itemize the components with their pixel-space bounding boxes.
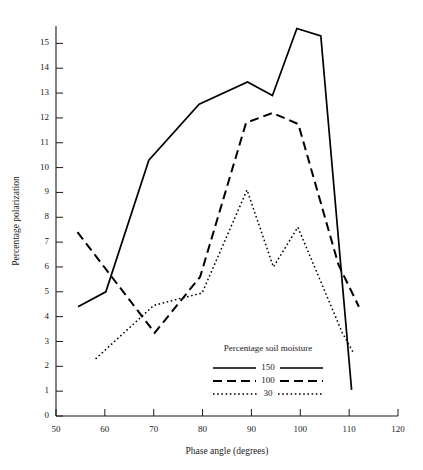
x-tick-label: 80 — [198, 424, 208, 434]
x-tick-label: 90 — [247, 424, 257, 434]
chart-figure: 0123456789101112131415 50607080901001101… — [0, 0, 423, 470]
y-axis-title: Percentage polarization — [11, 176, 21, 266]
y-tick-label: 14 — [40, 62, 50, 72]
y-tick-label: 9 — [45, 186, 50, 196]
legend-label-150: 150 — [261, 362, 275, 372]
y-tick-label: 10 — [40, 162, 50, 172]
y-tick-label: 15 — [40, 37, 50, 47]
x-axis-ticks: 5060708090100110120 — [52, 409, 406, 434]
y-tick-label: 5 — [45, 286, 50, 296]
line-chart: 0123456789101112131415 50607080901001101… — [0, 0, 423, 470]
y-tick-label: 1 — [45, 385, 50, 395]
axis-lines — [56, 26, 398, 416]
data-series-group — [78, 28, 359, 389]
series-line-100 — [78, 113, 359, 333]
x-tick-label: 60 — [100, 424, 110, 434]
y-axis-ticks: 0123456789101112131415 — [40, 37, 63, 420]
x-tick-label: 50 — [52, 424, 62, 434]
y-tick-label: 0 — [45, 410, 50, 420]
legend-label-100: 100 — [261, 375, 275, 385]
legend-label-30: 30 — [264, 388, 274, 398]
x-tick-label: 110 — [343, 424, 357, 434]
chart-legend: Percentage soil moisture15010030 — [213, 343, 323, 398]
y-tick-label: 4 — [45, 311, 50, 321]
y-tick-label: 7 — [45, 236, 50, 246]
x-tick-label: 120 — [391, 424, 405, 434]
series-line-150 — [78, 28, 352, 389]
y-tick-label: 8 — [45, 211, 50, 221]
y-tick-label: 12 — [40, 112, 49, 122]
y-tick-label: 13 — [40, 87, 50, 97]
x-axis-title: Phase angle (degrees) — [186, 446, 269, 457]
y-tick-label: 2 — [45, 360, 50, 370]
y-tick-label: 11 — [40, 137, 49, 147]
y-tick-label: 3 — [45, 336, 50, 346]
legend-title: Percentage soil moisture — [224, 343, 312, 353]
y-tick-label: 6 — [45, 261, 50, 271]
x-tick-label: 100 — [294, 424, 308, 434]
x-tick-label: 70 — [149, 424, 159, 434]
series-line-30 — [96, 190, 354, 359]
